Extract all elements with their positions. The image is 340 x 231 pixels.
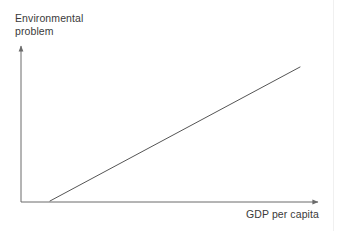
x-axis-label: GDP per capita (200, 208, 319, 221)
data-line-series-1 (50, 67, 300, 201)
y-axis-label: Environmental problem (15, 12, 83, 38)
chart-figure: Environmental problem GDP per capita (0, 0, 340, 231)
